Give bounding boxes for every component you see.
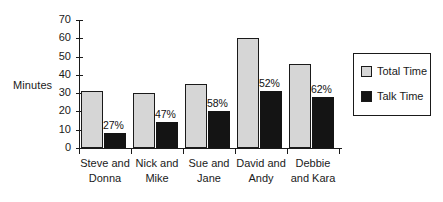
category-label-nick-and-mike: Nick and Mike	[131, 156, 183, 186]
category-line-2: Andy	[235, 171, 287, 186]
y-axis-title: Minutes	[13, 79, 52, 91]
category-label-steve-and-donna: Steve and Donna	[79, 156, 131, 186]
category-line-2: Donna	[79, 171, 131, 186]
legend-label-talk-time: Talk Time	[377, 90, 423, 102]
category-label-david-and-andy: David and Andy	[235, 156, 287, 186]
y-tick-label-10: 10	[49, 123, 71, 136]
bar-total-time-1[interactable]	[133, 93, 155, 148]
bar-talk-time-4[interactable]	[312, 97, 334, 148]
category-line-2: Mike	[131, 171, 183, 186]
category-line-1: Sue and	[183, 156, 235, 171]
legend-swatch-talk-time	[361, 91, 372, 102]
legend-item-talk-time[interactable]: Talk Time	[361, 90, 423, 102]
x-tick-5	[339, 148, 340, 154]
x-tick-0	[79, 148, 80, 154]
x-tick-4	[287, 148, 288, 154]
percent-label-2: 58%	[207, 97, 228, 109]
bar-group-sue-and-jane: 58%	[183, 20, 235, 148]
y-tick-label-60: 60	[49, 31, 71, 44]
bar-talk-time-0[interactable]	[104, 133, 126, 148]
percent-label-1: 47%	[155, 108, 176, 120]
category-line-2: and Kara	[287, 171, 339, 186]
legend-item-total-time[interactable]: Total Time	[361, 65, 427, 77]
bar-chart: Minutes 0 10 20 30 40 50 60 70	[0, 0, 443, 202]
y-tick-label-70: 70	[49, 13, 71, 26]
bar-total-time-0[interactable]	[81, 91, 103, 148]
y-tick-label-0: 0	[49, 141, 71, 154]
category-line-1: Debbie	[287, 156, 339, 171]
bar-talk-time-1[interactable]	[156, 122, 178, 148]
bar-talk-time-2[interactable]	[208, 111, 230, 148]
percent-label-4: 62%	[311, 83, 332, 95]
bar-group-david-and-andy: 52%	[235, 20, 287, 148]
percent-label-0: 27%	[103, 119, 124, 131]
bar-total-time-2[interactable]	[185, 84, 207, 148]
category-line-1: David and	[235, 156, 287, 171]
legend-label-total-time: Total Time	[377, 65, 427, 77]
x-tick-2	[183, 148, 184, 154]
bar-total-time-4[interactable]	[289, 64, 311, 148]
plot-area: 0 10 20 30 40 50 60 70	[79, 20, 342, 148]
category-line-1: Steve and	[79, 156, 131, 171]
x-tick-1	[131, 148, 132, 154]
category-line-1: Nick and	[131, 156, 183, 171]
legend-swatch-total-time	[361, 66, 372, 77]
category-line-2: Jane	[183, 171, 235, 186]
bar-total-time-3[interactable]	[237, 38, 259, 148]
chart-legend: Total Time Talk Time	[353, 53, 431, 116]
category-label-debbie-and-kara: Debbie and Kara	[287, 156, 339, 186]
percent-label-3: 52%	[259, 77, 280, 89]
bar-talk-time-3[interactable]	[260, 91, 282, 148]
y-tick-label-40: 40	[49, 68, 71, 81]
x-axis-line	[79, 148, 342, 149]
y-tick-label-20: 20	[49, 104, 71, 117]
bar-group-debbie-and-kara: 62%	[287, 20, 339, 148]
bar-group-nick-and-mike: 47%	[131, 20, 183, 148]
y-tick-label-50: 50	[49, 50, 71, 63]
x-tick-3	[235, 148, 236, 154]
bar-group-steve-and-donna: 27%	[79, 20, 131, 148]
y-tick-label-30: 30	[49, 86, 71, 99]
category-label-sue-and-jane: Sue and Jane	[183, 156, 235, 186]
